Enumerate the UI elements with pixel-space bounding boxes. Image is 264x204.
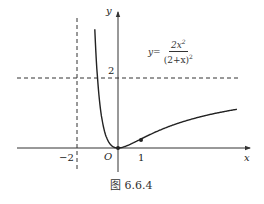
y-axis-label: y [106, 6, 112, 16]
formula-fraction: 2x2 (2+x)2 [164, 38, 193, 65]
formula-denominator: (2+x) [164, 55, 189, 65]
x-axis-label: x [244, 153, 250, 163]
formula-numerator: 2x [171, 40, 182, 50]
tick-label-1: 1 [138, 153, 144, 163]
function-formula: y= 2x2 (2+x)2 [148, 38, 193, 65]
point-x1 [139, 138, 143, 142]
formula-denominator-exp: 2 [189, 53, 193, 60]
tick-label-2: 2 [108, 66, 114, 76]
formula-numerator-exp: 2 [182, 38, 186, 45]
origin-label: O [104, 152, 112, 162]
function-graph [0, 0, 264, 204]
tick-label-neg2: −2 [59, 153, 74, 163]
figure-caption: 图 6.6.4 [110, 176, 153, 192]
formula-lhs: y= [148, 47, 161, 57]
origin-point [116, 146, 120, 150]
